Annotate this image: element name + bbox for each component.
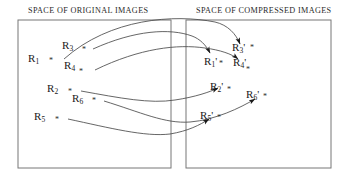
point-label-r6: R6 bbox=[72, 93, 83, 106]
point-marker-r2-prime: * bbox=[227, 86, 231, 94]
point-label-r3: R3 bbox=[62, 40, 73, 53]
r1-subscript: 1 bbox=[35, 57, 39, 66]
point-marker-r3-prime: * bbox=[250, 44, 254, 52]
point-label-r4-prime: R4' bbox=[233, 57, 246, 70]
point-marker-r4-prime: * bbox=[246, 66, 250, 74]
figure-canvas: SPACE OF ORIGINAL IMAGES SPACE OF COMPRE… bbox=[0, 0, 351, 188]
point-marker-r6-prime: * bbox=[263, 93, 267, 101]
r5p-prime: ' bbox=[211, 109, 213, 121]
point-marker-r1: * bbox=[49, 57, 53, 65]
r5-subscript: 5 bbox=[41, 115, 45, 124]
point-marker-r1-prime: * bbox=[219, 60, 223, 68]
r3p-prime: ' bbox=[243, 41, 245, 53]
point-label-r4: R4 bbox=[64, 60, 75, 73]
point-label-r2: R2 bbox=[47, 83, 58, 96]
mapping-curve-r1-to-r3p bbox=[64, 19, 240, 59]
point-label-r3-prime: R3' bbox=[232, 42, 245, 55]
point-marker-r5-prime: * bbox=[217, 114, 221, 122]
point-marker-r4: * bbox=[79, 68, 83, 76]
r4-subscript: 4 bbox=[71, 64, 75, 73]
r6-subscript: 6 bbox=[79, 97, 83, 106]
mapping-curve-r2-to-r2p bbox=[81, 88, 218, 101]
point-label-r1-prime: R1' bbox=[204, 56, 217, 69]
r3-subscript: 3 bbox=[69, 44, 73, 53]
left-space-box bbox=[18, 20, 171, 168]
point-label-r6-prime: R6' bbox=[246, 89, 259, 102]
point-label-r5: R5 bbox=[34, 111, 45, 124]
point-marker-r6: * bbox=[92, 97, 96, 105]
r2p-prime: ' bbox=[221, 80, 223, 92]
r1p-prime: ' bbox=[215, 55, 217, 67]
point-marker-r3: * bbox=[82, 46, 86, 54]
mapping-curve-r5-to-r5p bbox=[68, 119, 209, 135]
point-marker-r5: * bbox=[55, 116, 59, 124]
r2-subscript: 2 bbox=[54, 87, 58, 96]
point-label-r1: R1 bbox=[28, 53, 39, 66]
r6p-prime: ' bbox=[257, 88, 259, 100]
point-label-r2-prime: R2' bbox=[210, 81, 223, 94]
point-label-r5-prime: R5' bbox=[200, 110, 213, 123]
mapping-curve-r6-to-r6p bbox=[104, 99, 255, 122]
